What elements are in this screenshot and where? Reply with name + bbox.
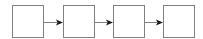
node-box-4 <box>164 6 195 38</box>
arrow-3-to-4 <box>145 20 163 26</box>
node-box-2 <box>64 6 95 38</box>
flow-diagram <box>0 0 203 39</box>
arrow-1-to-2 <box>44 20 63 26</box>
node-box-3 <box>114 6 145 38</box>
node-box-1 <box>13 6 44 38</box>
arrow-2-to-3 <box>95 20 113 26</box>
